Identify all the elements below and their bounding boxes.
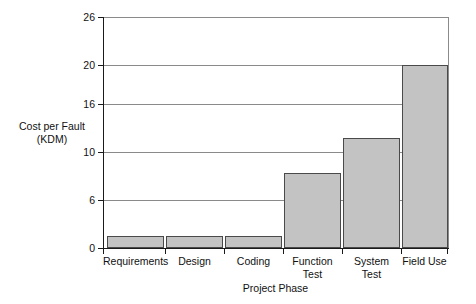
x-tick-mark-0 [103, 249, 104, 254]
y-tick-mark-6 [98, 200, 103, 201]
x-tick-mark-3 [283, 249, 284, 254]
x-label-function-test-line-1: Function [283, 255, 342, 268]
x-label-design: Design [165, 255, 224, 268]
x-tick-mark-5 [401, 249, 402, 254]
y-tick-label-20: 20 [67, 60, 95, 71]
x-tick-mark-4 [342, 249, 343, 254]
y-tick-label-0: 0 [67, 243, 95, 254]
x-tick-mark-2 [224, 249, 225, 254]
x-label-system-test: System Test [342, 255, 401, 280]
x-label-function-test-line-2: Test [283, 268, 342, 281]
bar-system-test [343, 138, 400, 248]
y-tick-mark-16 [98, 104, 103, 105]
x-label-design-line-1: Design [165, 255, 224, 268]
bar-function-test [284, 173, 341, 248]
x-label-requirements: Requirements [103, 255, 165, 268]
bar-requirements [107, 236, 164, 248]
x-label-system-test-line-2: Test [342, 268, 401, 281]
x-axis-title: Project Phase [103, 282, 448, 294]
x-label-coding: Coding [224, 255, 283, 268]
y-tick-mark-10 [98, 152, 103, 153]
y-tick-label-10: 10 [67, 147, 95, 158]
x-tick-mark-6 [447, 249, 448, 254]
y-tick-label-6: 6 [67, 195, 95, 206]
y-tick-mark-20 [98, 65, 103, 66]
y-axis-title-line-1: Cost per Fault [6, 120, 98, 133]
bar-coding [225, 236, 282, 248]
x-label-function-test: Function Test [283, 255, 342, 280]
x-label-requirements-line-1: Requirements [103, 255, 165, 268]
bar-design [166, 236, 223, 248]
bar-field-use [402, 65, 448, 248]
y-axis-title: Cost per Fault (KDM) [6, 120, 98, 146]
x-label-field-use: Field Use [401, 255, 448, 268]
y-axis-title-line-2: (KDM) [6, 133, 98, 146]
y-tick-label-16: 16 [67, 99, 95, 110]
x-label-field-use-line-1: Field Use [401, 255, 448, 268]
x-label-system-test-line-1: System [342, 255, 401, 268]
x-tick-mark-1 [165, 249, 166, 254]
y-tick-mark-26 [98, 17, 103, 18]
bar-chart: Cost per Fault (KDM) 26 20 16 10 6 0 Req… [0, 0, 476, 304]
x-label-coding-line-1: Coding [224, 255, 283, 268]
x-axis-line [103, 248, 449, 249]
y-tick-label-26: 26 [67, 12, 95, 23]
